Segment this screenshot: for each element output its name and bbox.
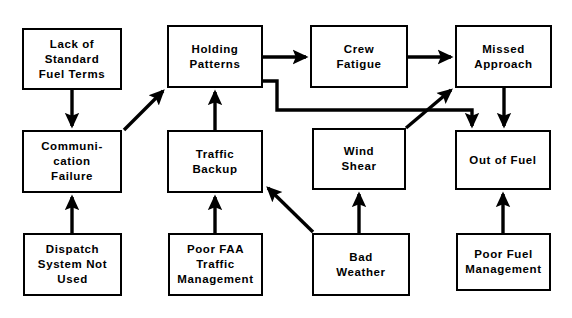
node-bad-weather[interactable]: Bad Weather: [312, 233, 410, 296]
node-out-of-fuel[interactable]: Out of Fuel: [455, 130, 551, 190]
node-crew-fatigue[interactable]: Crew Fatigue: [310, 25, 408, 88]
node-poor-faa-traffic-management[interactable]: Poor FAA Traffic Management: [168, 233, 263, 296]
node-missed-approach[interactable]: Missed Approach: [455, 25, 552, 88]
node-poor-fuel-management[interactable]: Poor Fuel Management: [456, 233, 551, 291]
edge-communication-failure-to-holding-patterns: [124, 91, 163, 130]
edge-bad-weather-to-traffic-backup: [268, 188, 313, 232]
node-dispatch-system-not-used[interactable]: Dispatch System Not Used: [23, 233, 122, 296]
node-label-missed-approach: Missed Approach: [472, 42, 534, 72]
flowchart-canvas: Lack of Standard Fuel TermsHolding Patte…: [0, 0, 572, 318]
node-label-lack-of-standard-fuel-terms: Lack of Standard Fuel Terms: [37, 37, 108, 82]
edge-bad-weather-to-missed-approach: [406, 90, 451, 128]
node-label-bad-weather: Bad Weather: [334, 250, 387, 280]
node-label-crew-fatigue: Crew Fatigue: [334, 42, 383, 72]
node-label-communication-failure: Communi- cation Failure: [39, 139, 105, 184]
node-lack-of-standard-fuel-terms[interactable]: Lack of Standard Fuel Terms: [22, 28, 122, 90]
node-label-poor-fuel-management: Poor Fuel Management: [463, 247, 543, 277]
node-label-poor-faa-traffic-management: Poor FAA Traffic Management: [175, 242, 255, 287]
node-label-out-of-fuel: Out of Fuel: [467, 153, 538, 168]
node-holding-patterns[interactable]: Holding Patterns: [167, 25, 263, 88]
node-communication-failure[interactable]: Communi- cation Failure: [22, 130, 122, 193]
node-label-dispatch-system-not-used: Dispatch System Not Used: [36, 242, 109, 287]
node-label-wind-shear: Wind Shear: [340, 144, 379, 174]
node-label-holding-patterns: Holding Patterns: [188, 42, 243, 72]
node-traffic-backup[interactable]: Traffic Backup: [167, 130, 263, 193]
node-label-traffic-backup: Traffic Backup: [190, 147, 239, 177]
node-wind-shear[interactable]: Wind Shear: [312, 128, 406, 190]
